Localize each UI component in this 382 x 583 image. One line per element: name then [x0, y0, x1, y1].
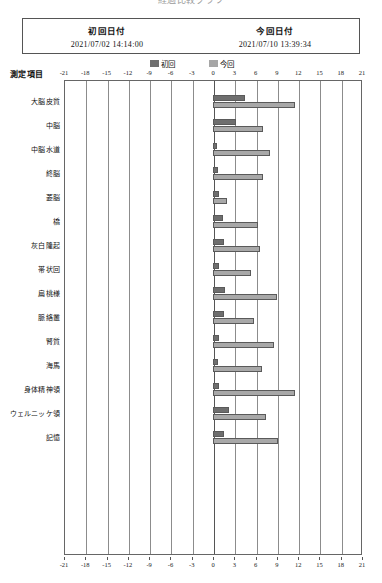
legend-item-current: 今回: [209, 58, 234, 69]
bar-初回: [213, 143, 217, 149]
x-tick-label-18: 18: [337, 69, 344, 76]
x-tick-label-15: 15: [316, 561, 323, 568]
current-date-value: 2021/07/10 13:39:34: [239, 40, 312, 49]
x-tick-label--12: -12: [124, 561, 133, 568]
x-tick-mark-0: [213, 557, 214, 560]
x-tick-mark--21: [64, 557, 65, 560]
x-tick-label--9: -9: [146, 69, 151, 76]
x-tick-mark-6: [256, 557, 257, 560]
x-axis-ticks-top: -21-18-15-12-9-6-3036912151821: [64, 69, 362, 79]
chart-row: 終脳: [64, 162, 362, 186]
bar-初回: [213, 383, 219, 389]
category-label: 終脳: [0, 162, 60, 186]
x-tick-label-21: 21: [359, 561, 366, 568]
chart-row: 記憶: [64, 426, 362, 450]
chart-row: 菱脳: [64, 186, 362, 210]
bar-初回: [213, 239, 224, 245]
chart-row: ウェルニッケ領: [64, 402, 362, 426]
x-tick-label--15: -15: [102, 69, 111, 76]
bar-今回: [213, 150, 270, 156]
x-tick-label--21: -21: [60, 561, 69, 568]
bar-初回: [213, 287, 225, 293]
bar-今回: [213, 366, 262, 372]
x-tick-label--18: -18: [81, 561, 90, 568]
legend-swatch-first-icon: [150, 60, 159, 67]
bar-今回: [213, 222, 258, 228]
chart-row: 海馬: [64, 354, 362, 378]
x-tick-label-9: 9: [275, 561, 278, 568]
category-label: 扁桃様: [0, 282, 60, 306]
x-tick-mark--9: [149, 557, 150, 560]
category-label: 大脳皮質: [0, 90, 60, 114]
x-tick-mark-12: [298, 557, 299, 560]
x-tick-mark-18: [341, 557, 342, 560]
x-tick-mark-3: [234, 557, 235, 560]
chart-row: 扁桃様: [64, 282, 362, 306]
x-tick-label-21: 21: [359, 69, 366, 76]
legend-label-first: 初回: [161, 58, 175, 69]
page-title: 経過比較グラフ: [0, 0, 382, 6]
bar-初回: [213, 215, 223, 221]
x-tick-label-12: 12: [295, 69, 302, 76]
x-tick-mark--6: [170, 557, 171, 560]
category-label: 身体精神領: [0, 378, 60, 402]
current-date-column: 今回日付 2021/07/10 13:39:34: [191, 19, 359, 53]
x-tick-label--3: -3: [189, 561, 194, 568]
category-label: 中脳: [0, 114, 60, 138]
x-tick-label--9: -9: [146, 561, 151, 568]
category-label: 腎質: [0, 330, 60, 354]
x-axis-ticks-bottom: -21-18-15-12-9-6-3036912151821: [64, 557, 362, 567]
chart-row: 腎質: [64, 330, 362, 354]
x-tick-label-12: 12: [295, 561, 302, 568]
x-tick-label-18: 18: [337, 561, 344, 568]
x-tick-label--3: -3: [189, 69, 194, 76]
bar-初回: [213, 191, 219, 197]
legend-label-current: 今回: [220, 58, 234, 69]
category-label: 中脳水道: [0, 138, 60, 162]
x-tick-label-9: 9: [275, 69, 278, 76]
bar-今回: [213, 270, 251, 276]
first-date-column: 初回日付 2021/07/02 14:14:00: [23, 19, 191, 53]
x-tick-label-3: 3: [233, 561, 236, 568]
x-tick-label-3: 3: [233, 69, 236, 76]
date-header-box: 初回日付 2021/07/02 14:14:00 今回日付 2021/07/10…: [22, 18, 360, 54]
chart-row: 大脳皮質: [64, 90, 362, 114]
bar-今回: [213, 414, 266, 420]
bar-初回: [213, 119, 236, 125]
legend-swatch-current-icon: [209, 60, 218, 67]
bar-初回: [213, 263, 219, 269]
bar-今回: [213, 390, 295, 396]
chart-row: 帯状回: [64, 258, 362, 282]
x-tick-mark--15: [107, 557, 108, 560]
category-label: 帯状回: [0, 258, 60, 282]
x-tick-label--6: -6: [168, 69, 173, 76]
category-label: 海馬: [0, 354, 60, 378]
chart-row: 中脳: [64, 114, 362, 138]
x-tick-label-6: 6: [254, 69, 257, 76]
current-date-label: 今回日付: [256, 24, 294, 36]
x-tick-mark-21: [362, 557, 363, 560]
bar-初回: [213, 359, 218, 365]
bar-初回: [213, 167, 218, 173]
category-label: 菱脳: [0, 186, 60, 210]
chart-row: 脈絡叢: [64, 306, 362, 330]
x-tick-mark--3: [192, 557, 193, 560]
first-date-label: 初回日付: [88, 24, 126, 36]
bar-今回: [213, 174, 263, 180]
x-tick-label--15: -15: [102, 561, 111, 568]
x-tick-mark--12: [128, 557, 129, 560]
x-tick-label-15: 15: [316, 69, 323, 76]
bar-今回: [213, 342, 274, 348]
bar-初回: [213, 335, 219, 341]
bar-初回: [213, 95, 245, 101]
bar-初回: [213, 431, 224, 437]
bar-今回: [213, 102, 295, 108]
category-label: 橋: [0, 210, 60, 234]
bar-今回: [213, 198, 227, 204]
x-tick-label--6: -6: [168, 561, 173, 568]
chart-area: 大脳皮質中脳中脳水道終脳菱脳橋灰白隆起帯状回扁桃様脈絡叢腎質海馬身体精神領ウェル…: [64, 80, 362, 555]
bar-初回: [213, 311, 224, 317]
x-tick-label-6: 6: [254, 561, 257, 568]
x-tick-mark-9: [277, 557, 278, 560]
chart-row: 橋: [64, 210, 362, 234]
